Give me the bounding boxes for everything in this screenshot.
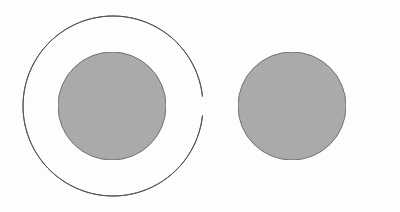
right-inner-disc [238, 52, 346, 160]
left-inner-disc [58, 52, 166, 160]
two-circle-diagram [0, 0, 400, 212]
